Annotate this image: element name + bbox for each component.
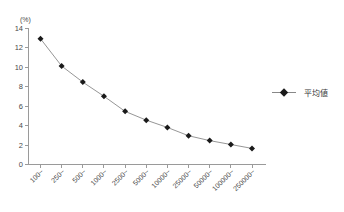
data-point-marker <box>228 142 234 148</box>
data-point-marker <box>122 108 128 114</box>
y-tick-label-14: 14 <box>15 24 23 33</box>
line-chart: (%) 02468101214 100~250~500~1000~2500~50… <box>0 0 344 212</box>
x-tick-label-5000: 5000~ <box>132 168 151 187</box>
series-line-0 <box>41 39 253 149</box>
legend-label-0: 平均値 <box>304 88 328 98</box>
y-tick-label-2: 2 <box>19 141 23 150</box>
y-axis-unit-label: (%) <box>20 16 31 24</box>
data-point-marker <box>186 133 192 139</box>
data-point-marker <box>101 93 107 99</box>
chart-legend: 平均値 <box>272 88 328 98</box>
data-point-marker <box>249 145 255 151</box>
x-tick-label-100000: 100000~ <box>211 168 235 192</box>
data-point-marker <box>143 117 149 123</box>
y-tick-label-8: 8 <box>19 82 23 91</box>
x-tick-label-25000: 25000~ <box>171 168 193 190</box>
y-tick-label-10: 10 <box>15 63 23 72</box>
y-axis: 02468101214 <box>15 24 29 170</box>
y-tick-label-12: 12 <box>15 43 23 52</box>
chart-container: (%) 02468101214 100~250~500~1000~2500~50… <box>0 0 344 212</box>
legend-diamond-icon <box>280 88 288 96</box>
x-tick-label-250000: 250000~ <box>232 168 256 192</box>
x-tick-label-10000: 10000~ <box>150 168 172 190</box>
x-tick-label-100: 100~ <box>29 168 45 184</box>
x-axis: 100~250~500~1000~2500~5000~10000~25000~5… <box>29 165 257 193</box>
data-point-marker <box>207 138 213 144</box>
y-tick-label-6: 6 <box>19 102 23 111</box>
x-tick-label-500: 500~ <box>71 168 87 184</box>
x-tick-label-2500: 2500~ <box>110 168 129 187</box>
y-tick-label-0: 0 <box>19 160 23 169</box>
x-tick-label-250: 250~ <box>50 168 66 184</box>
data-series-group <box>38 36 256 152</box>
y-tick-label-4: 4 <box>19 121 23 130</box>
data-point-marker <box>164 124 170 130</box>
x-tick-label-1000: 1000~ <box>89 168 108 187</box>
